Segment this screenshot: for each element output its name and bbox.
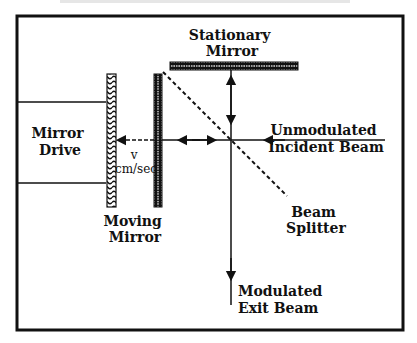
mirror-drive-label: Mirror Drive bbox=[31, 125, 88, 158]
interferometer-diagram: Stationary Mirror Mirror Drive Moving Mi… bbox=[0, 0, 417, 343]
velocity-label: v cm/sec bbox=[115, 148, 157, 176]
stationary-mirror-label: Stationary Mirror bbox=[189, 27, 275, 59]
moving-mirror-label: Moving Mirror bbox=[103, 213, 166, 245]
beam-splitter-label: Beam Splitter bbox=[286, 204, 346, 236]
page-header-fragment bbox=[60, 0, 350, 3]
stationary-mirror bbox=[170, 62, 298, 70]
incident-beam-label: Unmodulated Incident Beam bbox=[268, 122, 384, 155]
moving-mirror-position bbox=[154, 74, 162, 207]
exit-beam-label: Modulated Exit Beam bbox=[238, 283, 327, 316]
moving-mirror bbox=[107, 74, 116, 207]
beam-splitter bbox=[163, 72, 287, 196]
